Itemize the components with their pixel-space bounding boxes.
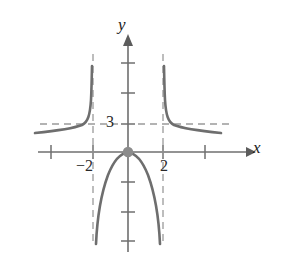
x-axis [38, 147, 256, 157]
x-tick-label-positive-2: 2 [160, 158, 168, 174]
function-graph-canvas [0, 0, 282, 264]
curve-right-outer-branch [164, 66, 221, 133]
curve-left-outer-branch [35, 66, 92, 133]
y-tick-label-3: 3 [106, 114, 114, 130]
origin-point-marker [123, 147, 133, 157]
x-axis-label: x [253, 139, 261, 156]
y-axis-label: y [118, 16, 126, 33]
x-tick-label-negative-2: −2 [76, 158, 93, 174]
y-axis [123, 34, 133, 252]
graph-figure: y x 3 −2 2 [0, 0, 282, 264]
